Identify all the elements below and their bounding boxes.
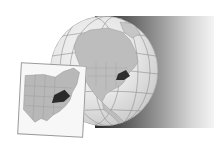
eastern-us-landmass (23, 66, 80, 125)
locator-map-illustration (0, 0, 214, 144)
central-america-landmass (102, 102, 126, 124)
inset-map (17, 62, 87, 137)
inset-map-graphic (18, 63, 86, 136)
